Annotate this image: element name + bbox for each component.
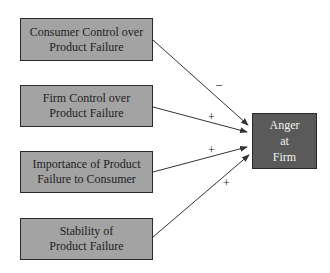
arrow-stability bbox=[153, 155, 249, 237]
arrow-firm-control bbox=[153, 107, 247, 132]
node-stability: Stability of Product Failure bbox=[20, 218, 153, 260]
node-label: Stability of Product Failure bbox=[49, 224, 123, 254]
node-anger-at-firm: Anger at Firm bbox=[252, 113, 317, 169]
sign-importance: + bbox=[208, 144, 215, 156]
node-label: Importance of Product Failure to Consume… bbox=[33, 157, 141, 187]
node-label: Anger at Firm bbox=[270, 117, 300, 165]
sign-stability: + bbox=[223, 177, 230, 189]
node-importance: Importance of Product Failure to Consume… bbox=[20, 151, 153, 193]
node-label: Consumer Control over Product Failure bbox=[30, 25, 143, 55]
sign-firm-control: + bbox=[208, 111, 215, 123]
sign-consumer-control: – bbox=[216, 78, 222, 90]
node-consumer-control: Consumer Control over Product Failure bbox=[20, 18, 153, 61]
arrow-consumer-control bbox=[153, 40, 248, 125]
node-firm-control: Firm Control over Product Failure bbox=[20, 85, 153, 127]
node-label: Firm Control over Product Failure bbox=[43, 91, 130, 121]
